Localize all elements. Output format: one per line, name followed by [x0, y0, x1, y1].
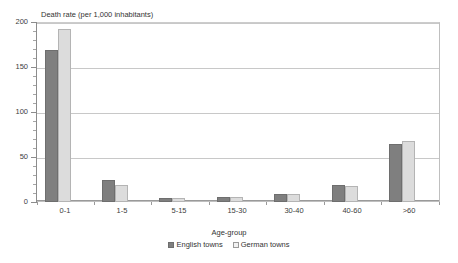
y-tick-minor-4 [33, 58, 36, 59]
y-axis-title: Death rate (per 1,000 inhabitants) [41, 10, 153, 19]
x-tick-label-1-5: 1-5 [94, 206, 150, 215]
x-tick-mark-5 [324, 202, 325, 205]
y-tick-minor-6 [33, 85, 36, 86]
legend-label-german: German towns [241, 240, 290, 249]
y-tick-minor-7 [33, 94, 36, 95]
y-tick-label-0: 0 [2, 198, 28, 206]
y-tick-minor-2 [33, 40, 36, 41]
legend-item-german-towns: German towns [233, 240, 290, 249]
bar-english-1-5 [102, 180, 115, 202]
y-tick-minor-13 [33, 166, 36, 167]
y-tick-minor-16 [33, 193, 36, 194]
bar-german-5-15 [172, 198, 185, 202]
bar-english-0-1 [45, 50, 58, 202]
y-tick-minor-5 [33, 76, 36, 77]
bar-english-40-60 [332, 185, 345, 202]
x-tick-mark-4 [266, 202, 267, 205]
y-tick-label-200: 200 [2, 18, 28, 26]
bar-english-over-60 [389, 144, 402, 202]
chart-legend: English towns German towns [0, 240, 458, 249]
y-tick-minor-10 [33, 130, 36, 131]
y-tick-major-100 [31, 112, 36, 113]
x-tick-label-40-60: 40-60 [324, 206, 380, 215]
legend-label-english: English towns [176, 240, 222, 249]
bar-english-15-30 [217, 197, 230, 202]
y-tick-minor-8 [33, 103, 36, 104]
x-tick-mark-7 [439, 202, 440, 205]
bar-german-1-5 [115, 185, 128, 202]
x-tick-mark-3 [209, 202, 210, 205]
y-tick-label-100: 100 [2, 108, 28, 116]
x-tick-label-30-40: 30-40 [266, 206, 322, 215]
legend-swatch-icon-english [168, 242, 174, 248]
y-tick-minor-3 [33, 49, 36, 50]
y-tick-minor-15 [33, 184, 36, 185]
x-tick-mark-1 [94, 202, 95, 205]
y-tick-minor-1 [33, 31, 36, 32]
bar-german-over-60 [402, 141, 415, 202]
y-tick-minor-9 [33, 121, 36, 122]
y-tick-label-50: 50 [2, 153, 28, 161]
y-tick-major-150 [31, 67, 36, 68]
legend-item-english-towns: English towns [168, 240, 222, 249]
bar-chart-figure: Death rate (per 1,000 inhabitants) 200 1… [0, 0, 458, 263]
bar-group-40-60 [324, 23, 381, 202]
y-tick-major-50 [31, 157, 36, 158]
y-tick-major-200 [31, 22, 36, 23]
bars-layer [37, 23, 439, 202]
bar-german-30-40 [287, 194, 300, 202]
y-tick-minor-12 [33, 148, 36, 149]
bar-group-15-30 [209, 23, 266, 202]
x-tick-label-0-1: 0-1 [37, 206, 93, 215]
x-tick-label-5-15: 5-15 [151, 206, 207, 215]
x-tick-mark-2 [151, 202, 152, 205]
y-tick-minor-14 [33, 175, 36, 176]
bar-english-5-15 [159, 198, 172, 202]
bar-german-15-30 [230, 197, 243, 202]
bar-german-0-1 [58, 29, 71, 202]
figure-caption [0, 256, 458, 263]
bar-english-30-40 [274, 194, 287, 202]
y-tick-major-0 [31, 202, 36, 203]
x-tick-mark-6 [381, 202, 382, 205]
bar-group-5-15 [151, 23, 208, 202]
y-tick-label-150: 150 [2, 63, 28, 71]
legend-swatch-icon-german [233, 242, 239, 248]
x-axis-title: Age-group [0, 228, 458, 237]
bar-group-0-1 [37, 23, 94, 202]
bar-group-1-5 [94, 23, 151, 202]
bar-german-40-60 [345, 186, 358, 202]
bar-group-over-60 [381, 23, 438, 202]
x-tick-label-over-60: >60 [381, 206, 437, 215]
x-tick-label-15-30: 15-30 [209, 206, 265, 215]
x-tick-mark-0 [37, 202, 38, 205]
y-tick-minor-11 [33, 139, 36, 140]
bar-group-30-40 [266, 23, 323, 202]
